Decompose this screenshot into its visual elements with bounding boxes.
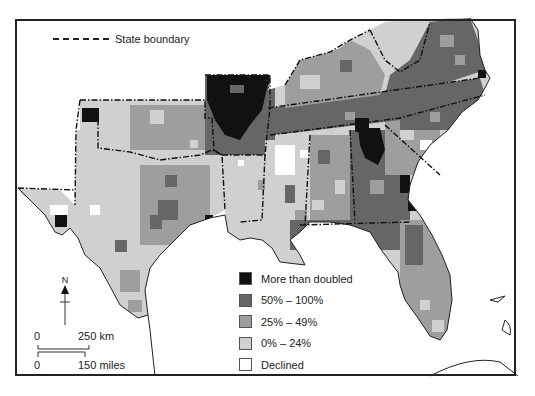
island-cuba <box>430 360 518 376</box>
legend-label: Declined <box>261 359 304 371</box>
scale-bar-icon <box>37 344 92 358</box>
legend-item-doubled: More than doubled <box>239 268 353 290</box>
legend-label: More than doubled <box>261 273 353 285</box>
north-label: N <box>58 275 72 285</box>
island-bahamas-2 <box>502 320 510 335</box>
scale-mi-end: 150 miles <box>78 359 125 371</box>
legend-item-0-24: 0% – 24% <box>239 333 353 355</box>
state-boundary-label: State boundary <box>115 33 190 45</box>
legend-item-25-49: 25% – 49% <box>239 311 353 333</box>
scale-mi-start: 0 <box>34 359 40 371</box>
legend-item-50-100: 50% – 100% <box>239 290 353 312</box>
legend-item-declined: Declined <box>239 354 353 376</box>
swatch-declined-icon <box>239 358 252 371</box>
legend-label: 0% – 24% <box>261 337 311 349</box>
swatch-doubled-icon <box>239 272 252 285</box>
north-arrow-icon <box>58 285 72 325</box>
scale-bar: 0 250 km 0 150 miles <box>34 330 154 374</box>
legend-label: 50% – 100% <box>261 294 323 306</box>
scale-km-end: 250 km <box>78 330 114 342</box>
swatch-25-49-icon <box>239 315 252 328</box>
legend-label: 25% – 49% <box>261 316 317 328</box>
swatch-50-100-icon <box>239 294 252 307</box>
swatch-0-24-icon <box>239 337 252 350</box>
north-arrow: N <box>58 275 72 325</box>
island-bahamas-1 <box>490 296 505 302</box>
state-boundary-key: State boundary <box>53 33 190 45</box>
scale-km-start: 0 <box>34 330 40 342</box>
legend: More than doubled 50% – 100% 25% – 49% 0… <box>239 268 353 376</box>
dash-dot-line-icon <box>53 38 109 40</box>
